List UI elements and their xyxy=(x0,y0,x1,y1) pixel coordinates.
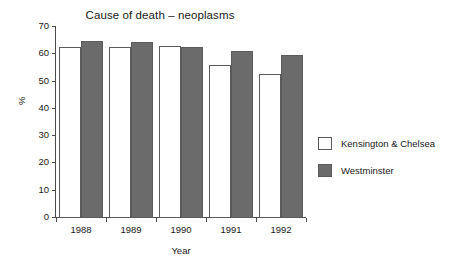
bar xyxy=(209,65,231,218)
x-axis-tick-label: 1992 xyxy=(259,224,303,235)
legend-item: Westminster xyxy=(318,164,435,177)
bar-group xyxy=(109,26,153,218)
x-axis-tick-mark xyxy=(56,218,57,222)
x-axis-tick-label: 1990 xyxy=(159,224,203,235)
bar-group xyxy=(159,26,203,218)
x-axis-tick-mark xyxy=(106,218,107,222)
bar-group xyxy=(59,26,103,218)
bar xyxy=(159,46,181,218)
x-axis-tick-mark xyxy=(306,218,307,222)
bar xyxy=(281,55,303,218)
x-axis-tick-label: 1988 xyxy=(59,224,103,235)
y-axis-tick-label: 30 xyxy=(38,129,49,140)
y-axis-tick-label: 0 xyxy=(44,211,49,222)
bar xyxy=(259,74,281,218)
x-axis-title: Year xyxy=(56,245,306,256)
y-axis-tick-label: 10 xyxy=(38,184,49,195)
chart-legend: Kensington & ChelseaWestminster xyxy=(318,137,435,191)
x-axis-tick-mark xyxy=(156,218,157,222)
bars-layer xyxy=(56,26,306,218)
bar xyxy=(181,47,203,218)
y-axis-title: % xyxy=(16,97,27,105)
y-axis-tick-label: 50 xyxy=(38,75,49,86)
x-axis-tick-label: 1989 xyxy=(109,224,153,235)
legend-item: Kensington & Chelsea xyxy=(318,137,435,150)
bar xyxy=(231,51,253,218)
y-axis-tick-label: 40 xyxy=(38,102,49,113)
bar xyxy=(131,42,153,218)
y-axis-tick-label: 60 xyxy=(38,47,49,58)
bar-group xyxy=(209,26,253,218)
bar xyxy=(59,47,81,218)
x-axis-tick-mark xyxy=(256,218,257,222)
y-axis-tick-group: 706050403020100 xyxy=(0,0,56,268)
legend-swatch xyxy=(318,137,332,150)
bar-group xyxy=(259,26,303,218)
y-axis-tick-label: 20 xyxy=(38,156,49,167)
legend-label: Kensington & Chelsea xyxy=(341,138,435,149)
bar xyxy=(109,47,131,218)
x-axis-tick-group: 19881989199019911992 xyxy=(56,218,306,248)
bar-chart-figure: Cause of death – neoplasms 7060504030201… xyxy=(0,0,466,268)
legend-swatch xyxy=(318,164,332,177)
y-axis-tick-label: 70 xyxy=(38,20,49,31)
legend-label: Westminster xyxy=(341,165,394,176)
x-axis-tick-label: 1991 xyxy=(209,224,253,235)
bar xyxy=(81,41,103,218)
x-axis-tick-mark xyxy=(206,218,207,222)
